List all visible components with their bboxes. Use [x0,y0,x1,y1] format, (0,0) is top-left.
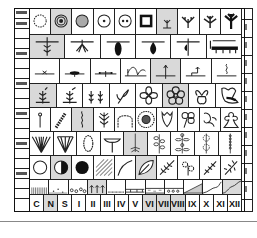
row-growth-habits [30,59,241,84]
spreading-rosette-icon [91,59,121,83]
dotted-slope-icon [184,180,203,194]
irregular-flower-icon [216,84,242,107]
fine-line-icon [107,180,126,194]
flowered-branch-icon [178,156,199,179]
filled-circle-icon [72,156,93,179]
branched-raceme-icon [94,108,115,131]
simple-umbel-icon [54,132,78,155]
shoot-with-bud-icon [30,84,57,107]
bent-stolon-icon [181,59,211,83]
paired-shoots-icon [83,84,110,107]
label-x: X [200,195,214,212]
row-shoots-and-flowers [30,84,241,108]
branching-seedling-icon [200,8,221,34]
arching-panicle-icon [115,108,136,131]
fern-frond-icon [200,156,221,179]
small-rosette-icon [30,59,60,83]
open-circle-icon [30,156,51,179]
label-xi: XI [214,195,228,212]
large-branched-plant-icon [221,8,241,34]
label-vii: VII [157,195,171,212]
arching-runner-icon [121,59,151,83]
upright-shoot-icon [151,59,181,83]
rooted-stem-spikes-icon [30,35,65,58]
sand-layer-icon [146,180,165,194]
row-column-labels: C N S I II III IV V VI VII VIII IX X XI … [30,195,241,212]
pinnate-leaf-icon [157,156,178,179]
concentric-circles-icon [51,8,72,34]
label-viii: VIII [171,195,186,212]
rhizome-with-roots-icon [207,35,241,58]
label-v: V [129,195,143,212]
tulip-flower-icon [110,84,137,107]
label-s: S [58,195,72,212]
dotted-circle-icon [30,8,51,34]
branched-shoot-icon [57,84,84,107]
label-n: N [44,195,58,212]
four-petal-flower-icon [136,84,163,107]
altitude-scale [14,8,30,212]
capitulum-oval-icon [77,132,101,155]
steep-slope-icon [223,180,241,194]
flat-rosette-icon [60,59,90,83]
starry-flowers-icon [195,132,219,155]
stippled-circle-icon [72,8,93,34]
catkin-icon [51,108,72,131]
label-vi: VI [143,195,157,212]
bulb-with-root-icon [171,35,206,58]
row-soil-types [30,180,241,195]
clover-flower-icon [178,108,199,131]
pebble-layer-icon [165,180,184,194]
seedlings-icon [88,180,107,194]
ovate-leaf-icon [136,156,157,179]
dark-tuber-icon [101,35,136,58]
single-spike-icon [30,108,51,131]
opposite-leaves-icon [148,132,172,155]
bricks-icon [126,180,145,194]
five-petal-flower-icon [163,84,190,107]
label-iii: III [101,195,115,212]
feathery-leaf-icon [221,156,241,179]
row-root-bud-forms [30,8,241,35]
sparse-dots-icon [49,180,68,194]
row-inflorescences [30,108,241,132]
whorled-leaves-icon [171,132,195,155]
month-scale [241,8,253,212]
rosette-stem-icon [124,132,148,155]
bell-flower-icon [157,108,178,131]
row-umbels-and-leaves [30,132,241,156]
label-i: I [72,195,86,212]
twining-climber-icon [212,59,241,83]
rising-slope-icon [203,180,222,194]
label-xii: XII [228,195,241,212]
small-seedling-icon [157,8,178,34]
pea-flower-icon [221,108,241,131]
thick-square-icon [136,8,157,34]
label-iv: IV [115,195,129,212]
row-light-and-leaf-types [30,156,241,180]
orchid-flower-icon [200,108,221,131]
forked-seedling-icon [178,8,199,34]
circle-dot-icon [94,8,115,34]
vertical-hatch-icon [30,180,49,194]
symbol-grid: C N S I II III IV V VI VII VIII IX X XI … [30,8,241,212]
row-below-ground-forms [30,35,241,59]
label-ix: IX [186,195,200,212]
flat-umbel-icon [101,132,125,155]
label-c: C [30,195,44,212]
bulb-tuft-icon [65,35,100,58]
bead-spike-icon [219,132,242,155]
violet-flower-icon [189,84,216,107]
composite-daisy-icon [136,108,157,131]
circle-two-dots-icon [115,8,136,34]
compound-umbel-icon [30,132,54,155]
dark-bulb-icon [136,35,171,58]
gravel-icon [69,180,88,194]
spiral-spike-icon [72,108,93,131]
narrow-leaf-icon [115,156,136,179]
half-circle-icon [51,156,72,179]
hatched-square-icon [94,156,115,179]
label-ii: II [86,195,100,212]
divider-line [0,221,257,222]
